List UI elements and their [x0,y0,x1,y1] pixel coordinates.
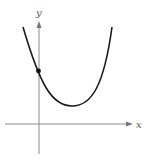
parabola-figure: x y [0,0,167,160]
x-axis-arrow-icon [126,122,133,127]
y-axis-arrow-icon [37,21,42,28]
x-axis-label: x [136,119,142,130]
parabola-curve [23,27,112,106]
y-axis-label: y [35,7,42,18]
x-axis: x [5,119,142,130]
y-axis: y [35,7,42,154]
y-intercept-point [36,69,41,74]
